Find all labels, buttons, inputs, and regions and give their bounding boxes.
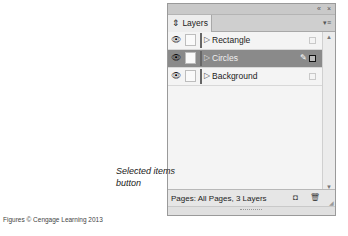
layer-row-rectangle[interactable]: 👁 ▷ Rectangle [168, 32, 324, 50]
vertical-scrollbar[interactable]: ▲ ▼ [322, 32, 335, 192]
layer-name: Background [212, 71, 257, 81]
callout-line-1: Selected items [116, 165, 175, 177]
layer-row-circles[interactable]: 👁 ▷ Circles ✎ [168, 50, 324, 68]
pen-icon: ✎ [300, 53, 307, 63]
new-layer-icon[interactable]: ◘ [291, 193, 300, 203]
selected-items-button[interactable] [309, 73, 316, 80]
eye-icon[interactable]: 👁 [171, 54, 182, 62]
eye-icon[interactable]: 👁 [171, 72, 182, 80]
panel-bottom-grip[interactable] [168, 206, 335, 215]
eye-icon[interactable]: 👁 [171, 36, 182, 44]
lock-toggle[interactable] [185, 52, 196, 64]
collapse-icon[interactable]: « [317, 4, 321, 14]
layer-name: Circles [212, 53, 238, 63]
double-arrow-icon: ⇕ [172, 18, 180, 28]
callout-line-2: button [116, 177, 175, 189]
layers-list: 👁 ▷ Rectangle 👁 ▷ Circles ✎ 👁 ▷ Backgrou… [168, 32, 324, 192]
layer-name: Rectangle [212, 35, 250, 45]
close-icon[interactable]: × [327, 4, 331, 14]
selected-items-button[interactable] [309, 55, 316, 62]
lock-toggle[interactable] [185, 70, 196, 82]
scroll-up-icon[interactable]: ▲ [326, 34, 332, 40]
layer-color-swatch [200, 33, 202, 48]
expand-triangle-icon[interactable]: ▷ [204, 53, 210, 63]
tab-row: ⇕ Layers ▾≡ [168, 15, 335, 32]
expand-triangle-icon[interactable]: ▷ [204, 35, 210, 45]
lock-toggle[interactable] [185, 34, 196, 46]
selected-items-button[interactable] [309, 37, 316, 44]
figure-credit: Figures © Cengage Learning 2013 [3, 216, 103, 223]
panel-menu-icon[interactable]: ▾≡ [323, 19, 331, 27]
callout-label: Selected items button [116, 165, 175, 189]
layer-color-swatch [200, 51, 202, 66]
resize-grip-icon[interactable]: ◢ [329, 199, 334, 206]
tab-layers[interactable]: ⇕ Layers [168, 15, 212, 32]
trash-icon[interactable]: 🗑 [310, 193, 319, 203]
layer-color-swatch [200, 69, 202, 84]
panel-title-bar: « × [168, 4, 335, 15]
status-text: Pages: All Pages, 3 Layers [171, 194, 267, 204]
tab-label: Layers [182, 18, 208, 28]
layer-row-background[interactable]: 👁 ▷ Background [168, 68, 324, 86]
panel-footer: Pages: All Pages, 3 Layers ◘ 🗑 ◢ [168, 189, 335, 207]
expand-triangle-icon[interactable]: ▷ [204, 71, 210, 81]
layers-panel: « × ⇕ Layers ▾≡ 👁 ▷ Rectangle 👁 ▷ Circle… [167, 3, 336, 216]
